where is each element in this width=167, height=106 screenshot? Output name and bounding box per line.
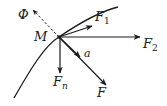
a-vector-arrow [59, 37, 80, 57]
point-m-label: M [33, 29, 48, 44]
a-label: a [84, 47, 91, 60]
diagram-canvas: M Φ F1 F2 a F Fn [0, 0, 167, 106]
f2-label: F2 [142, 36, 158, 53]
f1-label: F1 [94, 9, 110, 26]
fn-label: Fn [52, 74, 68, 91]
force-diagram: M Φ F1 F2 a F Fn [0, 0, 167, 106]
f1-vector-arrow [59, 26, 92, 37]
point-m-dot [57, 35, 61, 39]
phi-label: Φ [18, 7, 29, 22]
f-label: F [96, 85, 107, 100]
